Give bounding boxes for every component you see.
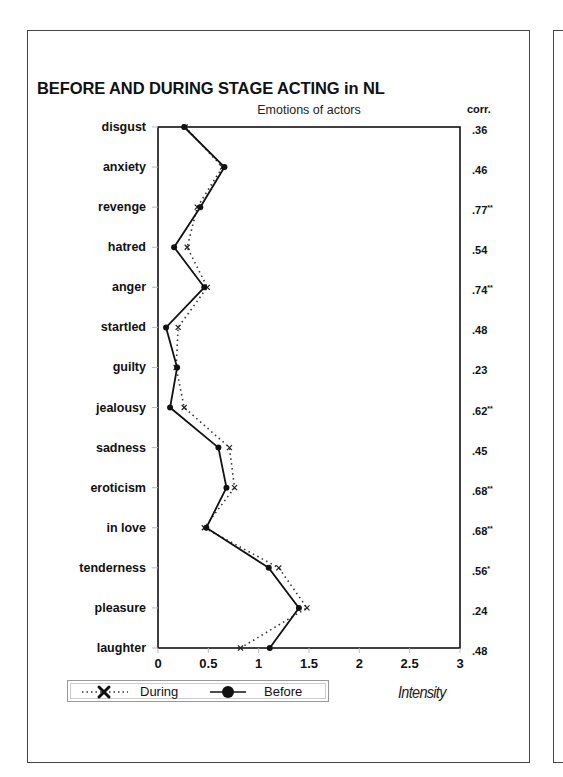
before-marker (181, 124, 187, 130)
x-axis-label: Intensity (398, 683, 446, 703)
before-marker (197, 204, 203, 210)
before-marker (171, 244, 177, 250)
before-marker (267, 645, 273, 651)
before-marker (215, 445, 221, 451)
legend: During Before (67, 680, 329, 702)
legend-during-label: During (140, 684, 178, 699)
before-marker (163, 324, 169, 330)
before-marker (201, 284, 207, 290)
before-marker (174, 364, 180, 370)
before-marker (167, 405, 173, 411)
series-before-line (166, 127, 299, 648)
during-marker (185, 245, 190, 250)
before-marker (266, 565, 272, 571)
during-marker (176, 325, 181, 330)
plot-border (158, 127, 460, 648)
during-marker (304, 605, 309, 610)
dot-marker-icon (222, 686, 234, 698)
legend-before-label: Before (264, 684, 302, 699)
during-marker (182, 405, 187, 410)
before-marker (296, 605, 302, 611)
before-marker (221, 164, 227, 170)
before-marker (203, 525, 209, 531)
during-marker (276, 565, 281, 570)
before-marker (223, 485, 229, 491)
during-marker (232, 485, 237, 490)
